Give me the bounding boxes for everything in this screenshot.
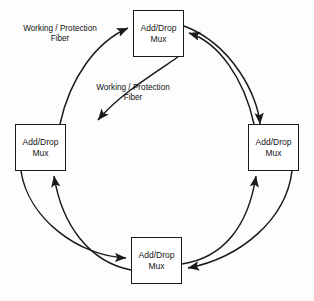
edge-label-working-protection-fiber-center: Working / Protection Fiber (78, 83, 188, 103)
edge-label-line2: Fiber (8, 34, 112, 44)
node-label-line2: Mux (32, 148, 48, 159)
node-label-line1: Add/Drop (256, 137, 292, 148)
node-label-line2: Mux (148, 261, 164, 272)
node-add-drop-mux-left[interactable]: Add/Drop Mux (15, 124, 66, 171)
edge-label-line1: Working / Protection (8, 24, 112, 34)
arrow-bottom-to-left (54, 176, 131, 270)
node-label-line1: Add/Drop (141, 23, 177, 34)
node-label-line1: Add/Drop (23, 137, 59, 148)
arrow-right-to-bottom (188, 171, 292, 268)
node-label-line2: Mux (150, 34, 166, 45)
arrow-top-to-bottom-right (184, 26, 260, 124)
node-add-drop-mux-top[interactable]: Add/Drop Mux (133, 10, 184, 57)
node-label-line1: Add/Drop (139, 250, 175, 261)
node-label-line2: Mux (265, 148, 281, 159)
edge-label-line1: Working / Protection (78, 83, 188, 93)
edge-label-working-protection-fiber-upper-left: Working / Protection Fiber (8, 24, 112, 44)
edge-label-line2: Fiber (78, 93, 188, 103)
ring-network-diagram: Add/Drop Mux Add/Drop Mux Add/Drop Mux A… (0, 0, 314, 301)
node-add-drop-mux-right[interactable]: Add/Drop Mux (248, 124, 299, 171)
node-add-drop-mux-bottom[interactable]: Add/Drop Mux (131, 237, 182, 284)
arrow-bottom-to-right (182, 176, 256, 264)
arrow-left-to-bottom (21, 171, 126, 258)
